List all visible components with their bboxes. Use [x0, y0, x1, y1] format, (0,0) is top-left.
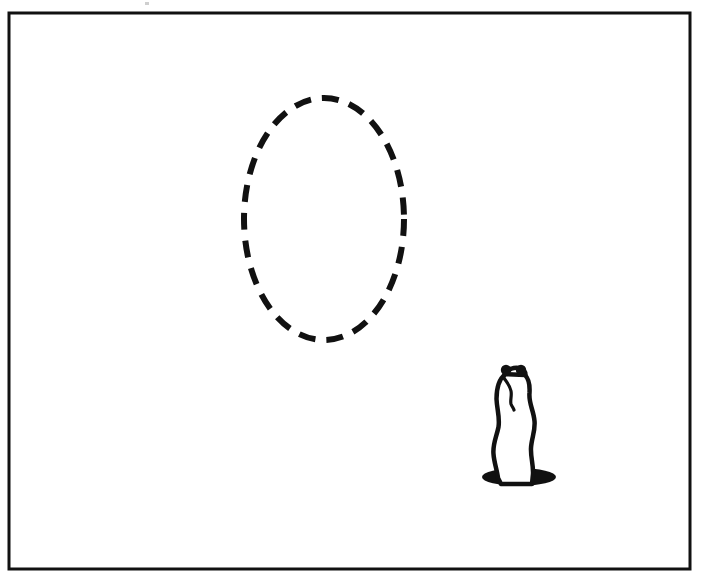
figure-canvas [0, 0, 707, 585]
prairie-dog-ear-right [516, 365, 526, 375]
scan-speck [145, 2, 149, 5]
figure-root: Prairie dog beside dashed oval A black r… [0, 0, 707, 585]
figure-background [0, 0, 707, 585]
prairie-dog-ear-left [501, 365, 511, 375]
prairie-dog [493, 365, 534, 484]
prairie-dog-body [493, 374, 534, 484]
